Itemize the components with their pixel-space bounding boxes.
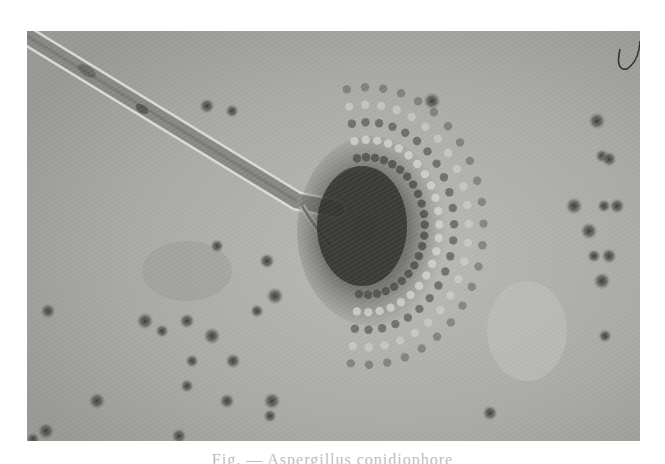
- figure-caption: Fig. — Aspergillus conidiophore: [0, 452, 665, 464]
- film-grain: [27, 31, 640, 441]
- micrograph-photo: [27, 31, 640, 441]
- micrograph-svg: [27, 31, 640, 441]
